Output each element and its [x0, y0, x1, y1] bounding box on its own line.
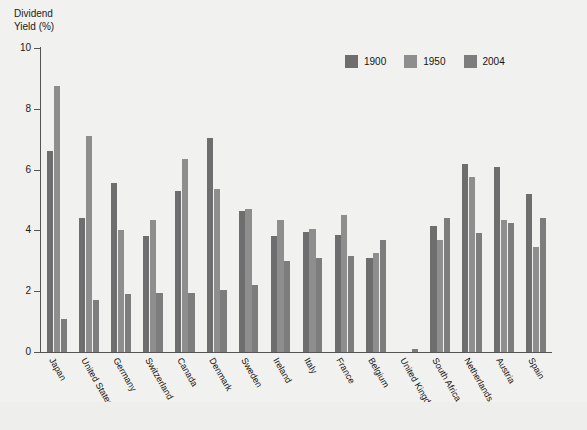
bar: [86, 136, 92, 352]
bar: [150, 220, 156, 352]
bar: [143, 236, 149, 352]
y-axis-tick-label: 4: [0, 224, 31, 235]
bar: [508, 223, 514, 352]
bar: [61, 319, 67, 352]
bottom-band: [0, 402, 587, 430]
x-axis-label: South Africa: [431, 356, 464, 403]
bar: [341, 215, 347, 352]
x-axis-label: Sweden: [239, 356, 264, 389]
bar: [239, 211, 245, 352]
x-axis-label: France: [335, 356, 358, 385]
bar: [469, 177, 475, 352]
legend-swatch-icon: [345, 55, 358, 68]
bar: [380, 240, 386, 352]
y-axis-tick-label: 2: [0, 285, 31, 296]
x-axis-label: Austria: [494, 356, 517, 385]
bar: [476, 233, 482, 352]
plot-area: [41, 48, 552, 352]
bar: [252, 285, 258, 352]
y-axis-tick: [34, 48, 41, 49]
bar: [175, 191, 181, 352]
bar: [316, 258, 322, 352]
bar: [430, 226, 436, 352]
x-axis-line: [40, 352, 552, 353]
x-axis-label: Ireland: [271, 356, 293, 385]
bar: [373, 253, 379, 352]
x-axis-label: United States: [79, 356, 115, 408]
y-axis-tick: [34, 291, 41, 292]
bar: [118, 230, 124, 352]
chart-legend: 190019502004: [345, 55, 505, 68]
y-axis-title: Dividend Yield (%): [14, 8, 54, 33]
bar: [54, 86, 60, 352]
bar: [366, 258, 372, 352]
y-axis-tick-label: 6: [0, 164, 31, 175]
bar: [182, 159, 188, 352]
x-axis-label: Belgium: [367, 356, 392, 389]
bar: [79, 218, 85, 352]
bar: [462, 164, 468, 352]
legend-label: 1950: [423, 56, 445, 67]
x-axis-label: Germany: [111, 356, 138, 393]
x-axis-label: Denmark: [207, 356, 234, 393]
x-axis-label: Italy: [303, 356, 320, 375]
bar: [277, 220, 283, 352]
x-axis-label: Netherlands: [462, 356, 495, 403]
y-axis-tick: [34, 230, 41, 231]
bar: [444, 218, 450, 352]
legend-item: 1950: [404, 55, 445, 68]
x-axis-label: Japan: [47, 356, 68, 382]
legend-label: 2004: [483, 56, 505, 67]
bar: [533, 247, 539, 352]
bar: [284, 261, 290, 352]
bar: [156, 293, 162, 352]
bar: [245, 209, 251, 352]
bar: [437, 240, 443, 352]
legend-item: 1900: [345, 55, 386, 68]
bar: [271, 236, 277, 352]
y-axis-tick: [34, 170, 41, 171]
bar: [412, 349, 418, 352]
bar: [220, 290, 226, 352]
x-axis-label: Canada: [175, 356, 199, 388]
bar: [111, 183, 117, 352]
bar: [540, 218, 546, 352]
bar: [494, 167, 500, 352]
x-axis-label: Switzerland: [143, 356, 175, 401]
bar: [207, 138, 213, 352]
legend-label: 1900: [364, 56, 386, 67]
legend-swatch-icon: [464, 55, 477, 68]
y-axis-tick-label: 10: [0, 42, 31, 53]
chart-frame: Dividend Yield (%) 0246810 JapanUnited S…: [0, 0, 587, 402]
bar: [501, 220, 507, 352]
y-axis-tick: [34, 352, 41, 353]
y-axis-tick: [34, 109, 41, 110]
y-axis-tick-label: 8: [0, 103, 31, 114]
chart-screenshot: Dividend Yield (%) 0246810 JapanUnited S…: [0, 0, 587, 430]
bar: [303, 232, 309, 352]
y-axis-tick-label: 0: [0, 346, 31, 357]
bar: [309, 229, 315, 352]
legend-swatch-icon: [404, 55, 417, 68]
legend-item: 2004: [464, 55, 505, 68]
bar: [214, 189, 220, 352]
bar: [47, 151, 53, 352]
bar: [526, 194, 532, 352]
bar: [125, 294, 131, 352]
x-axis-label: Spain: [526, 356, 546, 381]
bar: [335, 235, 341, 352]
bar: [93, 300, 99, 352]
bar: [188, 293, 194, 352]
bar: [348, 256, 354, 352]
